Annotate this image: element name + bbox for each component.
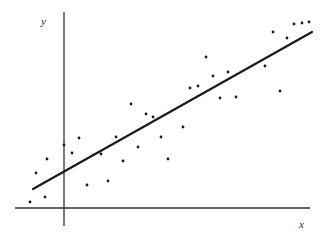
data-point bbox=[137, 146, 140, 149]
data-point bbox=[122, 160, 125, 163]
data-point bbox=[71, 152, 74, 155]
data-point bbox=[279, 90, 282, 93]
data-point bbox=[44, 196, 47, 199]
data-point bbox=[212, 75, 215, 78]
data-point bbox=[197, 85, 200, 88]
x-axis-label: x bbox=[298, 218, 304, 230]
data-point bbox=[286, 37, 289, 40]
data-point bbox=[86, 184, 89, 187]
data-point bbox=[227, 71, 230, 74]
data-point bbox=[189, 87, 192, 90]
y-axis-label: y bbox=[40, 15, 46, 27]
data-point bbox=[301, 22, 304, 25]
data-point bbox=[182, 126, 185, 129]
data-point bbox=[115, 136, 118, 139]
data-point bbox=[107, 180, 110, 183]
data-point bbox=[78, 137, 81, 140]
data-point bbox=[235, 96, 238, 99]
data-point bbox=[29, 201, 32, 204]
data-point bbox=[205, 56, 208, 59]
data-point bbox=[152, 116, 155, 119]
data-point bbox=[293, 23, 296, 26]
data-point bbox=[145, 113, 148, 116]
data-point bbox=[272, 31, 275, 34]
data-point bbox=[308, 21, 311, 24]
data-point bbox=[167, 158, 170, 161]
data-point bbox=[35, 172, 38, 175]
data-point bbox=[160, 136, 163, 139]
data-point bbox=[219, 97, 222, 100]
data-point bbox=[100, 153, 103, 156]
data-point bbox=[264, 65, 267, 68]
data-point bbox=[46, 158, 49, 161]
regression-line bbox=[33, 32, 312, 189]
axes bbox=[15, 12, 310, 226]
data-point bbox=[63, 144, 66, 147]
data-point bbox=[130, 103, 133, 106]
scatter-plot: y x bbox=[0, 0, 325, 238]
